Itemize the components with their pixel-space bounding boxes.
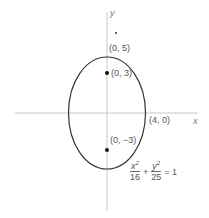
stray-dot: [115, 32, 117, 34]
x-axis-label: x: [193, 117, 198, 126]
y-axis-label: y: [110, 9, 115, 18]
focus-bottom-point: [105, 148, 109, 152]
x-numerator: x: [131, 161, 136, 171]
ellipse-equation: x2 16 + y2 25 = 1: [130, 162, 177, 182]
equals-one: = 1: [164, 167, 177, 177]
y-fraction: y2 25: [151, 162, 161, 182]
plus-sign: +: [143, 167, 148, 177]
diagram-canvas: [0, 0, 209, 218]
focus-bottom-label: (0, −3): [110, 136, 136, 145]
vertex-right-label: (4, 0): [149, 116, 170, 125]
vertex-top-label: (0, 5): [109, 44, 130, 53]
x-exponent: 2: [136, 160, 139, 166]
x-fraction: x2 16: [130, 162, 140, 182]
focus-top-label: (0, 3): [111, 69, 132, 78]
y-exponent: 2: [157, 160, 160, 166]
y-denominator: 25: [151, 172, 161, 182]
x-denominator: 16: [130, 172, 140, 182]
focus-top-point: [105, 71, 109, 75]
